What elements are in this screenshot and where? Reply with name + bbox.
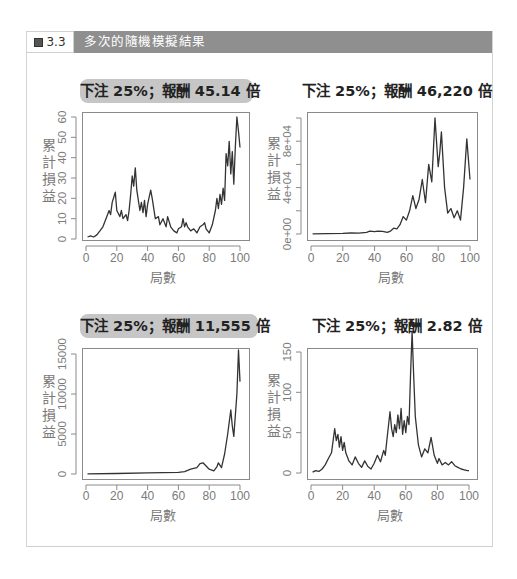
x-tick-label: 80 <box>203 251 217 265</box>
chart-panel-4: 020406080100局數050100150累計損益 <box>267 332 479 523</box>
y-tick-label: 50 <box>56 131 68 144</box>
y-tick-label: 60 <box>56 111 68 124</box>
x-tick-label: 40 <box>141 489 155 503</box>
x-axis-label: 局數 <box>150 270 176 285</box>
y-tick-label: 150 <box>281 342 293 361</box>
x-tick-label: 100 <box>459 489 479 503</box>
x-tick-label: 20 <box>336 489 350 503</box>
y-axis-label: 益 <box>267 423 281 439</box>
x-tick-label: 100 <box>230 251 250 265</box>
y-axis-label: 計 <box>42 390 56 406</box>
y-tick-label: 0e+00 <box>281 218 293 250</box>
x-tick-label: 0 <box>83 489 90 503</box>
plot-box <box>308 113 478 241</box>
y-axis-label: 累 <box>42 137 56 153</box>
chart-panel-1: 020406080100局數0102030405060累計損益 <box>42 111 250 285</box>
chart-panel-3: 020406080100局數050001000015000累計損益 <box>42 338 250 523</box>
x-tick-label: 60 <box>400 251 414 265</box>
y-tick-label: 10000 <box>56 378 68 410</box>
x-tick-label: 0 <box>83 251 90 265</box>
data-line <box>313 118 470 234</box>
y-axis-label: 損 <box>42 407 56 423</box>
x-axis-label: 局數 <box>150 508 176 523</box>
y-tick-label: 8e+04 <box>281 124 293 157</box>
x-tick-label: 60 <box>172 489 186 503</box>
x-tick-label: 0 <box>308 251 315 265</box>
x-tick-label: 100 <box>460 251 480 265</box>
x-tick-label: 0 <box>308 489 315 503</box>
plot-box <box>83 113 250 241</box>
chart-panel-2: 020406080100局數0e+004e+048e+04累計損益 <box>267 113 480 286</box>
y-tick-label: 15000 <box>56 338 68 370</box>
y-axis-label: 損 <box>267 406 281 422</box>
plot-box <box>308 349 478 480</box>
y-tick-label: 40 <box>56 151 68 164</box>
x-tick-label: 40 <box>141 251 155 265</box>
x-tick-label: 20 <box>110 251 124 265</box>
y-tick-label: 50 <box>281 426 293 439</box>
x-axis-label: 局數 <box>377 508 403 523</box>
y-tick-label: 10 <box>56 212 68 225</box>
y-axis-label: 累 <box>267 135 281 151</box>
y-tick-label: 0 <box>281 470 293 476</box>
charts-canvas: 020406080100局數0102030405060累計損益020406080… <box>0 0 517 579</box>
y-axis-label: 計 <box>42 154 56 170</box>
x-tick-label: 80 <box>431 489 445 503</box>
y-tick-label: 0 <box>56 471 68 477</box>
y-tick-label: 4e+04 <box>281 171 293 204</box>
y-axis-label: 累 <box>42 373 56 389</box>
y-axis-label: 益 <box>42 188 56 204</box>
x-tick-label: 60 <box>172 251 186 265</box>
x-tick-label: 20 <box>336 251 350 265</box>
x-tick-label: 40 <box>368 489 382 503</box>
y-tick-label: 100 <box>281 383 293 402</box>
y-axis-label: 累 <box>267 372 281 388</box>
y-tick-label: 20 <box>56 192 68 205</box>
x-tick-label: 80 <box>203 489 217 503</box>
y-axis-label: 損 <box>267 169 281 185</box>
plot-box <box>83 349 250 480</box>
y-tick-label: 30 <box>56 172 68 185</box>
y-axis-label: 計 <box>267 152 281 168</box>
y-tick-label: 5000 <box>56 421 68 447</box>
y-axis-label: 損 <box>42 171 56 187</box>
x-tick-label: 100 <box>230 489 250 503</box>
y-axis-label: 益 <box>42 424 56 440</box>
data-line <box>313 332 469 472</box>
y-tick-label: 0 <box>56 236 68 242</box>
x-axis-label: 局數 <box>378 270 404 285</box>
x-tick-label: 20 <box>110 489 124 503</box>
y-axis-label: 計 <box>267 389 281 405</box>
x-tick-label: 60 <box>399 489 413 503</box>
data-line <box>88 350 241 474</box>
y-axis-label: 益 <box>267 186 281 202</box>
x-tick-label: 80 <box>432 251 446 265</box>
data-line <box>88 117 241 237</box>
x-tick-label: 40 <box>368 251 382 265</box>
